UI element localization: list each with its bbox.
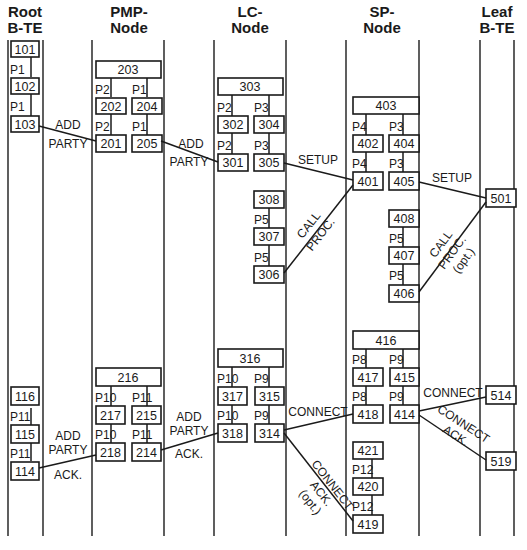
svg-text:115: 115 [15, 428, 35, 442]
port-label: P5 [254, 213, 269, 227]
svg-text:406: 406 [394, 287, 415, 301]
svg-text:418: 418 [358, 408, 379, 422]
box-405: 405 [389, 172, 419, 190]
svg-text:ACK.: ACK. [175, 447, 203, 461]
svg-text:216: 216 [118, 371, 139, 385]
box-304: 304 [254, 116, 284, 133]
box-417: 417 [353, 368, 383, 386]
port-label: P4 [352, 120, 367, 134]
header-lc-node: LC- Node [231, 3, 269, 36]
svg-text:114: 114 [15, 465, 35, 479]
svg-text:420: 420 [358, 480, 379, 494]
svg-text:102: 102 [15, 80, 36, 94]
box-305: 305 [254, 154, 284, 171]
msg-add-party-ack-1: ADD PARTY ACK. [49, 429, 88, 482]
svg-text:405: 405 [394, 175, 415, 189]
box-102: 102 [11, 78, 39, 94]
port-label: P2 [217, 101, 232, 115]
box-407: 407 [389, 247, 419, 264]
svg-text:116: 116 [15, 390, 35, 404]
box-418: 418 [353, 405, 383, 423]
header-root: Root B-TE [8, 3, 43, 36]
msg-add-party-2: ADD PARTY [170, 137, 209, 169]
svg-text:317: 317 [222, 390, 243, 404]
box-316: 316 [218, 349, 283, 367]
box-514: 514 [486, 386, 516, 404]
svg-text:419: 419 [358, 518, 379, 532]
box-203: 203 [96, 61, 161, 78]
port-label: P2 [95, 83, 110, 97]
box-519: 519 [486, 452, 516, 470]
box-314: 314 [255, 424, 284, 442]
port-label: P9 [254, 409, 269, 423]
svg-text:Leaf: Leaf [482, 3, 514, 20]
port-label: P3 [254, 101, 269, 115]
svg-text:501: 501 [491, 192, 512, 206]
svg-text:307: 307 [259, 230, 280, 244]
svg-text:205: 205 [137, 137, 158, 151]
svg-text:Node: Node [110, 19, 148, 36]
box-419: 419 [353, 515, 383, 533]
box-408: 408 [389, 210, 419, 227]
svg-text:ACK.: ACK. [54, 468, 82, 482]
header-pmp-node: PMP- Node [110, 3, 148, 36]
box-401: 401 [353, 172, 383, 190]
port-label: P10 [217, 409, 239, 423]
svg-text:ADD: ADD [55, 118, 81, 132]
box-302: 302 [218, 116, 248, 133]
msg-connect-2: CONNECT [423, 386, 483, 400]
box-204: 204 [132, 98, 162, 114]
box-205: 205 [132, 135, 162, 152]
svg-text:PMP-: PMP- [110, 3, 148, 20]
port-label: P11 [10, 410, 31, 424]
box-501: 501 [486, 189, 516, 207]
box-406: 406 [389, 285, 419, 302]
svg-text:202: 202 [101, 100, 122, 114]
svg-text:ADD: ADD [176, 410, 202, 424]
svg-text:204: 204 [137, 100, 158, 114]
msg-setup-1: SETUP [298, 153, 338, 167]
svg-text:203: 203 [118, 63, 139, 77]
box-215: 215 [132, 406, 161, 424]
msg-connect-ack-2: CONNECT ACK. [427, 402, 493, 458]
port-label: P1 [10, 100, 25, 114]
svg-text:316: 316 [240, 352, 261, 366]
box-114: 114 [11, 462, 39, 480]
svg-text:417: 417 [358, 371, 379, 385]
port-label: P8 [352, 353, 367, 367]
port-label: P5 [389, 269, 404, 283]
port-label: P5 [254, 251, 269, 265]
msg-setup-2: SETUP [432, 171, 472, 185]
box-420: 420 [353, 478, 383, 495]
box-306: 306 [254, 266, 284, 283]
svg-text:PARTY: PARTY [49, 137, 88, 151]
svg-text:308: 308 [259, 193, 280, 207]
port-label: P2 [95, 120, 110, 134]
svg-text:305: 305 [259, 156, 280, 170]
port-label: P3 [389, 157, 404, 171]
msg-connect-1: CONNECT [288, 405, 348, 419]
svg-text:303: 303 [240, 80, 261, 94]
svg-text:415: 415 [394, 371, 415, 385]
svg-text:403: 403 [376, 99, 397, 113]
box-103: 103 [11, 116, 39, 132]
svg-text:Root: Root [8, 3, 42, 20]
svg-text:416: 416 [376, 334, 397, 348]
port-label: P9 [389, 390, 404, 404]
svg-text:318: 318 [222, 427, 243, 441]
port-label: P11 [132, 391, 153, 405]
port-label: P11 [10, 447, 31, 461]
svg-text:314: 314 [259, 427, 280, 441]
svg-text:301: 301 [223, 156, 244, 170]
header-leaf: Leaf B-TE [480, 3, 515, 36]
msg-add-party-ack-2: ADD PARTY ACK. [170, 410, 209, 461]
port-label: P9 [389, 353, 404, 367]
box-308: 308 [254, 191, 284, 208]
port-label: P3 [389, 120, 404, 134]
port-label: P10 [217, 372, 239, 386]
svg-text:217: 217 [100, 409, 121, 423]
port-label: P4 [352, 157, 367, 171]
box-414: 414 [390, 405, 419, 423]
box-201: 201 [96, 135, 126, 152]
port-label: P8 [352, 390, 367, 404]
